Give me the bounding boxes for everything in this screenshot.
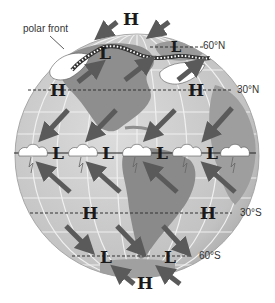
high-pressure-north-pole: H <box>123 11 139 28</box>
low-pressure-equator-4: L <box>206 145 218 162</box>
polar-easterly-arrow <box>102 22 117 34</box>
global-wind-diagram: polar front 60°N 30°N 30°S 60°S H L L H … <box>0 0 275 303</box>
lat-60n-label: 60°N <box>203 40 225 51</box>
lat-30s-label: 30°S <box>240 207 262 218</box>
high-pressure-30n-east: H <box>188 82 204 99</box>
low-pressure-equator-3: L <box>156 145 168 162</box>
polar-front-label: polar front <box>23 23 68 34</box>
low-pressure-60n-east: L <box>171 40 182 55</box>
polar-easterly-arrow <box>154 22 169 33</box>
high-pressure-south-pole: H <box>137 275 153 292</box>
low-pressure-60s-west: L <box>100 249 112 266</box>
low-pressure-equator-1: L <box>52 145 64 162</box>
globe-illustration <box>0 0 275 303</box>
low-pressure-60s-east: L <box>164 249 176 266</box>
high-pressure-30s-west: H <box>82 205 98 222</box>
low-pressure-equator-2: L <box>102 145 114 162</box>
high-pressure-30s-east: H <box>200 205 216 222</box>
high-pressure-30n-west: H <box>50 82 66 99</box>
lat-60s-label: 60°S <box>199 250 221 261</box>
polar-front-pointer <box>50 36 64 49</box>
lat-30n-label: 30°N <box>237 84 259 95</box>
low-pressure-60n-west: L <box>99 45 111 62</box>
